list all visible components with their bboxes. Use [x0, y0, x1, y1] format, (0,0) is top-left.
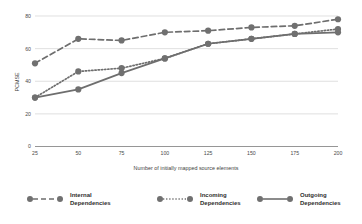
data-point-marker — [335, 16, 341, 22]
legend-label-line2: Dependencies — [70, 200, 111, 206]
x-tick-label: 175 — [290, 150, 299, 156]
legend-label-line2: Dependencies — [300, 200, 341, 206]
data-point-marker — [162, 29, 168, 35]
legend-label-line2: Dependencies — [200, 200, 241, 206]
y-tick-label: 20 — [25, 111, 31, 117]
legend-marker-left — [157, 196, 163, 202]
legend-marker-right — [57, 196, 63, 202]
data-point-marker — [118, 70, 124, 76]
legend-label-line1: Internal — [70, 192, 92, 198]
x-tick-label: 150 — [247, 150, 256, 156]
legend-label-line1: Outgoing — [300, 192, 327, 198]
data-point-marker — [75, 68, 81, 74]
x-tick-label: 25 — [32, 150, 38, 156]
data-point-marker — [75, 86, 81, 92]
data-point-marker — [118, 37, 124, 43]
data-point-marker — [32, 94, 38, 100]
chart-container: 020406080 255075100125150175200 PCMSE Nu… — [0, 0, 362, 224]
data-point-marker — [335, 29, 341, 35]
data-point-marker — [248, 24, 254, 30]
legend-marker-right — [187, 196, 193, 202]
legend-marker-left — [257, 196, 263, 202]
y-tick-label: 80 — [25, 13, 31, 19]
legend-marker-right — [287, 196, 293, 202]
y-axis-title: PCMSE — [14, 72, 20, 92]
data-point-marker — [292, 23, 298, 29]
x-tick-label: 125 — [204, 150, 213, 156]
x-tick-label: 50 — [75, 150, 81, 156]
x-tick-label: 75 — [119, 150, 125, 156]
x-axis-title: Number of initially mapped source elemen… — [134, 165, 239, 171]
data-point-marker — [75, 36, 81, 42]
data-point-marker — [205, 28, 211, 34]
data-point-marker — [162, 55, 168, 61]
y-tick-label: 60 — [25, 46, 31, 52]
data-point-marker — [292, 31, 298, 37]
data-point-marker — [248, 36, 254, 42]
data-point-marker — [205, 41, 211, 47]
chart-figure: 020406080 255075100125150175200 PCMSE Nu… — [0, 0, 362, 224]
y-tick-label: 40 — [25, 78, 31, 84]
x-tick-label: 100 — [161, 150, 170, 156]
data-point-marker — [32, 60, 38, 66]
legend-marker-left — [27, 196, 33, 202]
x-tick-label: 200 — [334, 150, 343, 156]
y-tick-label: 0 — [28, 143, 31, 149]
legend-label-line1: Incoming — [200, 192, 227, 198]
